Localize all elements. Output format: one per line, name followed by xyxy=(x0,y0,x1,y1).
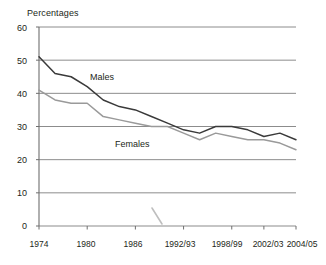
plot-area xyxy=(0,0,326,265)
axis-ticks xyxy=(36,27,296,230)
scan-artifact xyxy=(152,208,162,224)
chart-container: Percentages 60 50 40 30 20 10 0 1974 198… xyxy=(0,0,326,265)
data-series xyxy=(39,57,296,150)
